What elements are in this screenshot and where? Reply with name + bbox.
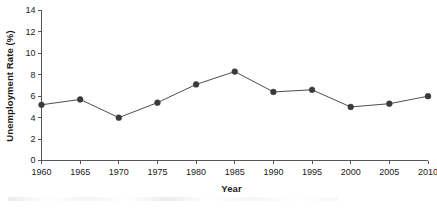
data-point-marker [386, 101, 392, 107]
data-point-marker [271, 89, 277, 95]
x-tick-label: 2005 [379, 167, 399, 177]
x-tick-label: 1990 [263, 167, 283, 177]
y-tick-label: 14 [25, 5, 35, 15]
data-point-marker [309, 87, 315, 93]
data-point-marker [116, 115, 122, 121]
data-point-marker [193, 82, 199, 88]
x-tick-label: 1980 [186, 167, 206, 177]
data-point-marker [155, 100, 161, 106]
data-point-marker [425, 93, 431, 99]
y-tick-label: 12 [25, 27, 35, 37]
y-tick-label: 0 [30, 155, 35, 165]
x-axis-title: Year [26, 183, 437, 194]
x-tick-label: 1995 [302, 167, 322, 177]
x-tick-label: 2010 [418, 167, 437, 177]
y-tick-label: 6 [30, 91, 35, 101]
x-tick-label: 2000 [341, 167, 361, 177]
plot-area: 0246810121419601965197019751980198519901… [0, 0, 437, 210]
x-tick-label: 1965 [70, 167, 90, 177]
data-point-marker [39, 102, 45, 108]
y-tick-label: 2 [30, 134, 35, 144]
x-tick-label: 1985 [225, 167, 245, 177]
data-point-marker [348, 104, 354, 110]
x-tick-label: 1970 [109, 167, 129, 177]
x-tick-label: 1975 [147, 167, 167, 177]
data-point-marker [232, 69, 238, 75]
x-tick-label: 1960 [31, 167, 51, 177]
data-point-marker [77, 97, 83, 103]
y-tick-label: 10 [25, 48, 35, 58]
y-tick-label: 8 [30, 70, 35, 80]
y-tick-label: 4 [30, 113, 35, 123]
series-line-unemployment-rate [42, 72, 429, 118]
unemployment-rate-line-chart: Unemployment Rate (%) 024681012141960196… [0, 0, 437, 210]
